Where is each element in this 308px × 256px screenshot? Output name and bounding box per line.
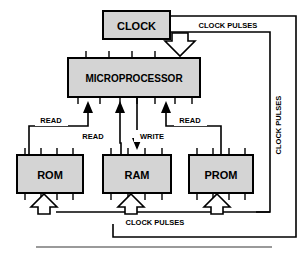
- block-prom-label: PROM: [205, 169, 238, 181]
- label-clock-pulses-top: CLOCK PULSES: [199, 21, 258, 30]
- label-read-ram: READ: [82, 132, 104, 141]
- arrowhead-read-ram: [115, 101, 125, 113]
- block-rom-label: ROM: [37, 169, 63, 181]
- wire-read-prom: [166, 105, 221, 155]
- arrowhead-read-prom: [161, 101, 171, 113]
- label-clock-pulses-right: CLOCK PULSES: [274, 96, 283, 155]
- wire-group: [29, 16, 296, 237]
- block-microprocessor-label: MICROPROCESSOR: [85, 73, 183, 84]
- solid-arrowhead-group: [83, 101, 171, 150]
- hollow-arrow-clock-to-rom: [31, 194, 57, 214]
- block-microprocessor[interactable]: MICROPROCESSOR: [68, 58, 200, 97]
- block-diagram: CLOCK MICROPROCESSOR ROM RAM PROM: [0, 0, 308, 256]
- hollow-arrow-clock-to-ram: [118, 194, 144, 214]
- label-read-rom: READ: [40, 116, 62, 125]
- block-ram[interactable]: RAM: [103, 155, 171, 193]
- diagram-canvas: CLOCK MICROPROCESSOR ROM RAM PROM: [0, 0, 308, 256]
- arrowhead-read-rom: [83, 101, 93, 113]
- block-prom[interactable]: PROM: [189, 155, 253, 193]
- label-read-prom: READ: [179, 116, 201, 125]
- hollow-arrow-clock-to-prom: [204, 194, 230, 214]
- label-write-ram: WRITE: [140, 132, 164, 141]
- block-ram-label: RAM: [124, 169, 149, 181]
- blocks-group: CLOCK MICROPROCESSOR ROM RAM PROM: [17, 11, 253, 193]
- label-clock-pulses-bottom: CLOCK PULSES: [126, 218, 185, 227]
- block-clock[interactable]: CLOCK: [103, 11, 170, 39]
- block-clock-label: CLOCK: [117, 20, 156, 32]
- block-rom[interactable]: ROM: [17, 155, 83, 193]
